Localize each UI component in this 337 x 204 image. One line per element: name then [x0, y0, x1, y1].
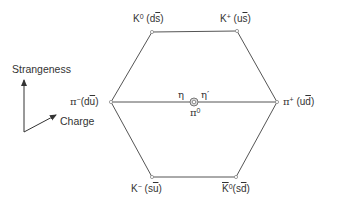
label-kplus: K+ (us): [220, 14, 251, 24]
vertex-kplus: [235, 29, 238, 32]
center-marker: [190, 98, 198, 106]
charge-axis-label: Charge: [60, 116, 94, 127]
label-etaprime: η′: [201, 90, 209, 100]
label-eta: η: [178, 90, 184, 100]
charge-axis-arrow: [24, 115, 56, 132]
meson-octet-diagram: Strangeness Charge K0 (ds) K+ (us) π−(du…: [0, 0, 337, 204]
label-kminus: K− (su): [131, 184, 162, 194]
vertex-k0: [150, 30, 153, 33]
vertex-piminus: [109, 100, 112, 103]
vertex-k0bar: [234, 175, 237, 178]
strangeness-axis-label: Strangeness: [12, 64, 71, 75]
label-pi0: π0: [190, 108, 200, 118]
vertex-kminus: [150, 175, 153, 178]
label-piplus: π+ (ud): [283, 97, 314, 107]
label-k0bar: K0(sd): [222, 184, 250, 194]
vertex-piplus: [275, 100, 278, 103]
label-piminus: π−(du): [70, 97, 98, 107]
label-k0: K0 (ds): [133, 14, 164, 24]
